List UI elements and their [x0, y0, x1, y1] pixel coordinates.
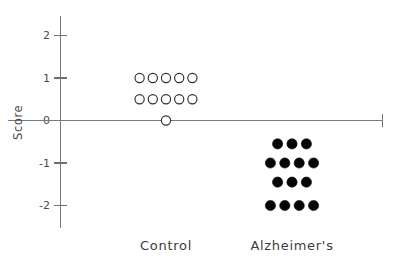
data-point: [161, 73, 170, 82]
group-label-alzheimers: Alzheimer's: [250, 238, 333, 253]
y-tick-label--1: -1: [39, 157, 50, 170]
data-point: [148, 95, 157, 104]
data-point: [175, 73, 184, 82]
data-point: [309, 200, 319, 210]
data-point: [265, 158, 275, 168]
data-point: [287, 177, 297, 187]
data-point: [188, 73, 197, 82]
y-axis-title: Score: [11, 105, 25, 140]
y-axis: 210-1-2: [39, 16, 67, 228]
data-point: [301, 177, 311, 187]
data-point: [273, 177, 283, 187]
data-point: [287, 139, 297, 149]
plot-area: 210-1-2 Score Control Alzheimer's: [0, 0, 396, 267]
data-point: [175, 95, 184, 104]
x-axis: [8, 114, 383, 127]
y-tick-label-1: 1: [43, 72, 50, 85]
data-point: [294, 158, 304, 168]
series-control-points: [135, 73, 197, 125]
data-point: [309, 158, 319, 168]
data-point: [135, 95, 144, 104]
series-alzheimers-points: [265, 139, 318, 211]
data-point: [161, 95, 170, 104]
data-point: [280, 158, 290, 168]
data-point: [161, 116, 170, 125]
y-tick-label--2: -2: [39, 199, 50, 212]
y-tick-label-2: 2: [43, 29, 50, 42]
data-point: [273, 139, 283, 149]
dot-plot-chart: 210-1-2 Score Control Alzheimer's: [0, 0, 396, 267]
data-point: [265, 200, 275, 210]
data-point: [294, 200, 304, 210]
data-point: [301, 139, 311, 149]
data-point: [135, 73, 144, 82]
group-label-control: Control: [140, 238, 192, 253]
data-point: [280, 200, 290, 210]
data-point: [148, 73, 157, 82]
data-point: [188, 95, 197, 104]
